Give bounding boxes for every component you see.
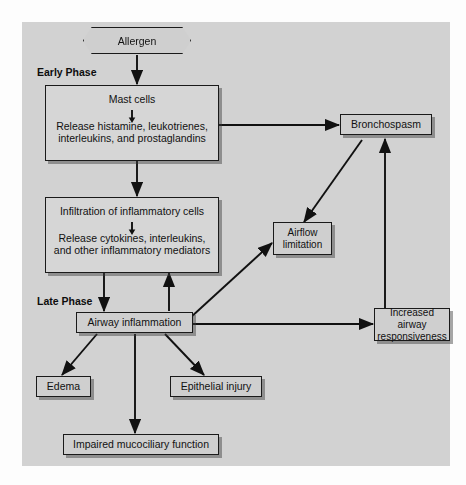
node-impaired-mucociliary-function[interactable]: Impaired mucociliary function xyxy=(63,434,219,455)
phase-label-late: Late Phase xyxy=(37,295,92,307)
figure-page: Early Phase Late Phase Allergen Mast cel… xyxy=(0,0,466,485)
node-allergen[interactable]: Allergen xyxy=(83,27,191,54)
node-infiltration-head: Infiltration of inflammatory cells xyxy=(60,205,204,218)
node-bronchospasm-label: Bronchospasm xyxy=(351,118,421,131)
node-increased-airway-responsiveness-line2: responsiveness xyxy=(377,331,446,343)
node-infiltration-body-line2: and other inflammatory mediators xyxy=(54,244,210,257)
node-allergen-label: Allergen xyxy=(118,35,157,47)
node-mast-cells-head: Mast cells xyxy=(109,93,156,106)
node-bronchospasm[interactable]: Bronchospasm xyxy=(340,114,432,135)
node-edema-label: Edema xyxy=(47,380,80,393)
phase-label-early: Early Phase xyxy=(37,66,97,78)
node-mast-cells[interactable]: Mast cells Release histamine, leukotrien… xyxy=(45,85,219,161)
node-increased-airway-responsiveness-line1: Increased airway xyxy=(375,307,449,331)
node-airflow-limitation-line2: limitation xyxy=(283,239,322,251)
node-impaired-mucociliary-function-label: Impaired mucociliary function xyxy=(73,438,209,451)
node-mast-cells-body-line2: interleukins, and prostaglandins xyxy=(58,132,206,145)
inner-arrow-mast xyxy=(128,110,137,123)
node-airflow-limitation[interactable]: Airflow limitation xyxy=(273,222,332,255)
inner-arrow-infiltration xyxy=(128,222,137,235)
node-increased-airway-responsiveness[interactable]: Increased airway responsiveness xyxy=(374,308,450,341)
node-airflow-limitation-line1: Airflow xyxy=(287,227,317,239)
node-edema[interactable]: Edema xyxy=(36,376,91,397)
node-epithelial-injury[interactable]: Epithelial injury xyxy=(170,376,262,397)
node-airway-inflammation[interactable]: Airway inflammation xyxy=(76,312,193,333)
node-epithelial-injury-label: Epithelial injury xyxy=(181,380,252,393)
node-infiltration[interactable]: Infiltration of inflammatory cells Relea… xyxy=(45,197,219,273)
node-airway-inflammation-label: Airway inflammation xyxy=(88,316,182,329)
